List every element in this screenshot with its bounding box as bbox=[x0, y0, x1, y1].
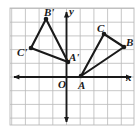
vertex-label-b-prime: B' bbox=[44, 7, 54, 18]
vertex-dot-a bbox=[79, 74, 84, 79]
vertex-label-a: A bbox=[78, 80, 85, 91]
origin-label: O bbox=[58, 79, 66, 90]
vertex-dot-c-prime bbox=[29, 46, 34, 51]
vertex-label-c: C bbox=[97, 23, 104, 34]
x-axis-label: x bbox=[126, 72, 132, 83]
vertex-label-b: B bbox=[126, 37, 133, 48]
vertex-label-c-prime: C' bbox=[17, 47, 27, 58]
coordinate-plane-figure: A B C A' B' C' O x y bbox=[0, 0, 140, 133]
plot-canvas bbox=[0, 0, 140, 133]
y-axis-label: y bbox=[69, 6, 74, 17]
figure-background bbox=[0, 0, 140, 133]
vertex-label-a-prime: A' bbox=[69, 52, 79, 63]
